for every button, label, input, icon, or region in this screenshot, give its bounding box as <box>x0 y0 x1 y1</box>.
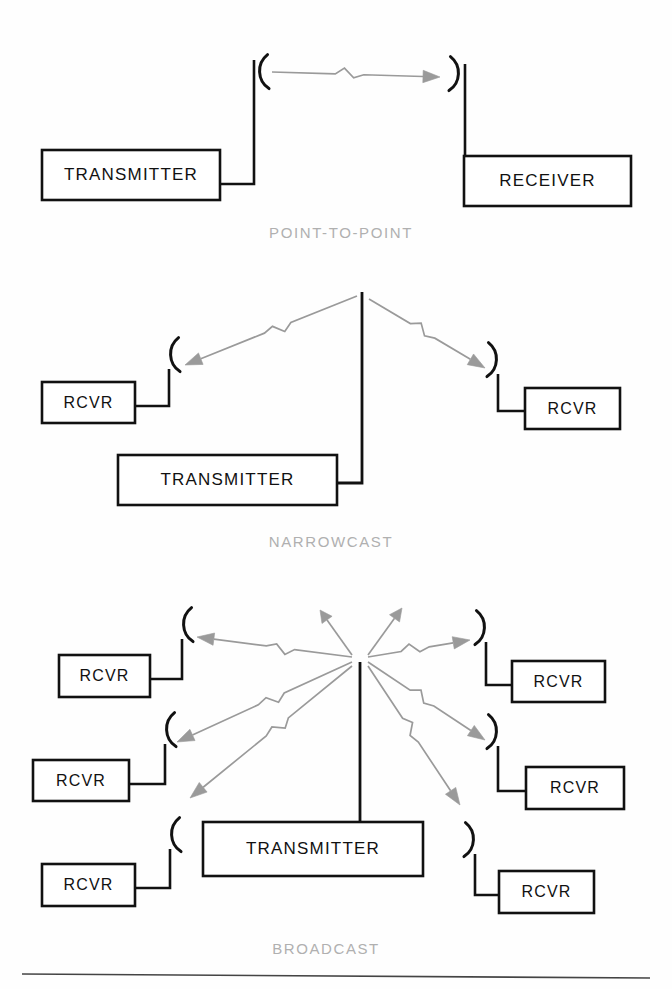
signal-shaft <box>201 296 357 359</box>
antenna-arc <box>464 823 473 857</box>
box-label: RCVR <box>79 667 129 684</box>
receiver-mast <box>150 639 182 679</box>
antenna-arc <box>475 611 484 645</box>
signal-arrow <box>190 666 352 798</box>
transmitter-mast <box>220 60 254 184</box>
antenna-icon <box>475 611 484 645</box>
arrowhead <box>190 782 207 798</box>
signal-arrow <box>368 662 485 740</box>
antenna-icon <box>184 608 193 642</box>
box-label: TRANSMITTER <box>160 470 294 489</box>
antenna-arc <box>260 55 269 89</box>
equipment-box[interactable]: RECEIVER <box>464 156 631 206</box>
receiver-mast <box>486 642 512 685</box>
box-label: RECEIVER <box>499 171 596 190</box>
signal-shaft <box>368 662 471 731</box>
antenna-arc <box>487 715 496 749</box>
arrowhead <box>389 608 402 622</box>
signal-shaft <box>272 68 423 78</box>
antenna-icon <box>449 57 458 91</box>
signal-arrow <box>177 662 352 742</box>
equipment-boxes-layer: TRANSMITTERRECEIVERTRANSMITTERRCVRRCVRTR… <box>33 150 631 913</box>
diagram-canvas: TRANSMITTERRECEIVERTRANSMITTERRCVRRCVRTR… <box>0 0 672 989</box>
footer-rule <box>22 974 650 978</box>
equipment-box[interactable]: RCVR <box>42 382 135 423</box>
caption-narrowcast: NARROWCAST <box>269 533 393 550</box>
arrowhead <box>452 637 470 649</box>
antenna-icon <box>167 713 176 747</box>
receiver-mast <box>135 369 169 406</box>
signal-arrow <box>272 68 440 83</box>
broadcast-topology-figure: TRANSMITTERRECEIVERTRANSMITTERRCVRRCVRTR… <box>0 0 672 989</box>
equipment-box[interactable]: RCVR <box>33 760 129 801</box>
equipment-box[interactable]: RCVR <box>512 661 605 702</box>
antenna-icon <box>487 715 496 749</box>
antenna-icon <box>487 343 496 377</box>
antenna-arc <box>167 713 176 747</box>
signal-arrow <box>368 608 402 655</box>
antenna-arc <box>172 818 181 852</box>
signal-shaft <box>368 666 451 791</box>
signal-shaft <box>368 618 395 655</box>
arrowhead <box>320 610 332 623</box>
signal-shaft <box>214 639 352 657</box>
receiver-mast <box>498 746 526 791</box>
equipment-box[interactable]: TRANSMITTER <box>203 822 423 876</box>
antenna-arc <box>449 57 458 91</box>
signal-shaft <box>369 299 470 359</box>
signal-shaft <box>192 662 352 735</box>
arrowhead <box>185 353 203 365</box>
signal-shaft <box>368 643 453 657</box>
box-label: RCVR <box>63 394 113 411</box>
equipment-box[interactable]: RCVR <box>499 871 594 913</box>
signal-arrow <box>369 299 485 368</box>
receiver-mast <box>475 854 499 895</box>
box-label: RCVR <box>533 673 583 690</box>
arrowhead <box>467 354 485 368</box>
arrowhead <box>197 633 215 645</box>
receiver-mast <box>498 374 525 411</box>
transmitter-mast <box>337 292 362 483</box>
antenna-icon <box>260 55 269 89</box>
signal-arrow <box>368 666 460 805</box>
box-label: TRANSMITTER <box>246 839 380 858</box>
signal-arrow <box>185 296 357 365</box>
equipment-box[interactable]: RCVR <box>42 864 135 906</box>
arrowhead <box>423 70 440 82</box>
equipment-box[interactable]: TRANSMITTER <box>118 455 337 505</box>
box-label: RCVR <box>550 779 600 796</box>
equipment-box[interactable]: RCVR <box>526 767 624 809</box>
signal-arrow <box>368 637 470 657</box>
box-label: RCVR <box>547 400 597 417</box>
antenna-icon <box>464 823 473 857</box>
antenna-icon <box>171 338 180 372</box>
box-label: RCVR <box>56 772 106 789</box>
receiver-mast <box>135 849 170 888</box>
signal-arrow <box>320 610 352 655</box>
signal-arrow <box>197 633 352 657</box>
antenna-arc <box>487 343 496 377</box>
equipment-box[interactable]: RCVR <box>59 655 150 697</box>
caption-broadcast: BROADCAST <box>272 940 380 957</box>
signal-shaft <box>327 620 352 655</box>
equipment-box[interactable]: TRANSMITTER <box>42 150 220 200</box>
box-label: RCVR <box>521 883 571 900</box>
box-label: RCVR <box>63 876 113 893</box>
equipment-box[interactable]: RCVR <box>525 388 620 429</box>
antenna-icon <box>172 818 181 852</box>
box-label: TRANSMITTER <box>64 165 198 184</box>
antenna-arc <box>184 608 193 642</box>
arrowhead <box>177 729 195 742</box>
arrowhead <box>467 725 485 740</box>
arrowhead <box>445 787 460 805</box>
receiver-mast <box>129 744 165 784</box>
caption-point-to-point: POINT-TO-POINT <box>269 224 413 241</box>
signal-shaft <box>203 666 352 787</box>
signal-arrows-layer <box>177 68 485 805</box>
antenna-arc <box>171 338 180 372</box>
